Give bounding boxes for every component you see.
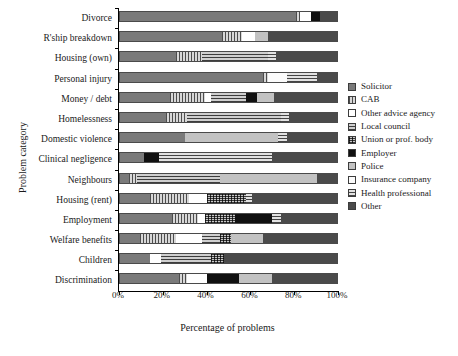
legend-item-localcouncil[interactable]: Local council <box>348 120 458 133</box>
legend-item-police[interactable]: Police <box>348 160 458 173</box>
stacked-bar[interactable] <box>119 31 338 42</box>
bar-segment-solicitor[interactable] <box>120 113 166 122</box>
bar-segment-solicitor[interactable] <box>120 234 140 243</box>
bar-segment-union[interactable] <box>211 254 224 263</box>
bar-segment-solicitor[interactable] <box>120 214 172 223</box>
bar-segment-localcouncil[interactable] <box>161 254 211 263</box>
bar-segment-cab[interactable] <box>140 234 177 243</box>
bar-segment-police[interactable] <box>185 133 278 142</box>
bar-segment-localcouncil[interactable] <box>202 234 219 243</box>
stacked-bar[interactable] <box>119 233 338 244</box>
bar-segment-cab[interactable] <box>150 194 189 203</box>
bar-segment-solicitor[interactable] <box>120 274 179 283</box>
bar-segment-solicitor[interactable] <box>120 32 222 41</box>
bar-segment-solicitor[interactable] <box>120 93 170 102</box>
stacked-bar[interactable] <box>119 11 338 22</box>
bar-segment-cab[interactable] <box>129 174 138 183</box>
bar-segment-police[interactable] <box>239 274 272 283</box>
bar-segment-localcouncil[interactable] <box>202 52 267 61</box>
bar-segment-health[interactable] <box>281 113 290 122</box>
bar-segment-other[interactable] <box>287 133 337 142</box>
bar-segment-employer[interactable] <box>207 274 240 283</box>
bar-row <box>119 109 338 129</box>
legend-item-union[interactable]: Union or prof. body <box>348 133 458 146</box>
legend-item-other[interactable]: Other <box>348 200 458 213</box>
bar-segment-other[interactable] <box>272 274 337 283</box>
legend-item-solicitor[interactable]: Solicitor <box>348 80 458 93</box>
bar-segment-localcouncil[interactable] <box>211 93 246 102</box>
bar-segment-other[interactable] <box>317 174 337 183</box>
bar-segment-other[interactable] <box>268 32 337 41</box>
bar-segment-otheradvice[interactable] <box>187 274 207 283</box>
bar-segment-other[interactable] <box>320 12 337 21</box>
bar-segment-employer[interactable] <box>311 12 320 21</box>
bar-segment-other[interactable] <box>272 153 337 162</box>
stacked-bar[interactable] <box>119 253 338 264</box>
stacked-bar[interactable] <box>119 72 338 83</box>
bar-segment-other[interactable] <box>263 234 337 243</box>
bar-segment-employer[interactable] <box>246 93 257 102</box>
legend-item-health[interactable]: Health professional <box>348 186 458 199</box>
bar-row <box>119 8 338 28</box>
legend-item-cab[interactable]: CAB <box>348 93 458 106</box>
bar-segment-union[interactable] <box>207 194 246 203</box>
bar-segment-other[interactable] <box>274 93 337 102</box>
stacked-bar[interactable] <box>119 193 338 204</box>
bar-segment-cab[interactable] <box>166 113 188 122</box>
stacked-bar[interactable] <box>119 273 338 284</box>
bar-segment-otheradvice[interactable] <box>189 194 206 203</box>
bar-segment-solicitor[interactable] <box>120 133 185 142</box>
stacked-bar[interactable] <box>119 51 338 62</box>
stacked-bar[interactable] <box>119 213 338 224</box>
bar-segment-employer[interactable] <box>235 214 272 223</box>
bar-segment-employer[interactable] <box>144 153 159 162</box>
bar-segment-cab[interactable] <box>176 52 202 61</box>
legend-label: Union or prof. body <box>361 135 433 144</box>
bar-segment-otheradvice[interactable] <box>150 254 161 263</box>
bar-segment-solicitor[interactable] <box>120 12 296 21</box>
bar-segment-solicitor[interactable] <box>120 174 129 183</box>
bar-segment-other[interactable] <box>281 214 337 223</box>
bar-segment-other[interactable] <box>317 73 337 82</box>
bar-segment-insurance[interactable] <box>268 73 288 82</box>
stacked-bar[interactable] <box>119 132 338 143</box>
bar-segment-health[interactable] <box>268 52 277 61</box>
bar-segment-solicitor[interactable] <box>120 52 176 61</box>
bar-segment-solicitor[interactable] <box>120 153 144 162</box>
bar-segment-police[interactable] <box>255 32 268 41</box>
bar-segment-cab[interactable] <box>172 214 198 223</box>
bar-segment-health[interactable] <box>287 73 317 82</box>
category-label: Discrimination <box>14 270 116 290</box>
stacked-bar[interactable] <box>119 112 338 123</box>
bar-segment-union[interactable] <box>220 234 231 243</box>
bar-segment-cab[interactable] <box>179 274 188 283</box>
bar-segment-health[interactable] <box>278 133 287 142</box>
stacked-bar[interactable] <box>119 152 338 163</box>
stacked-bar[interactable] <box>119 92 338 103</box>
bar-segment-localcouncil[interactable] <box>187 113 280 122</box>
bar-segment-police[interactable] <box>257 93 274 102</box>
bar-segment-solicitor[interactable] <box>120 73 263 82</box>
bar-segment-union[interactable] <box>205 214 235 223</box>
bar-segment-other[interactable] <box>276 52 337 61</box>
legend-item-otheradvice[interactable]: Other advice agency <box>348 107 458 120</box>
bar-segment-otheradvice[interactable] <box>242 32 255 41</box>
legend-label: CAB <box>361 95 380 104</box>
bar-segment-other[interactable] <box>252 194 337 203</box>
stacked-bar[interactable] <box>119 173 338 184</box>
bar-segment-health[interactable] <box>272 214 281 223</box>
bar-segment-other[interactable] <box>289 113 337 122</box>
legend-item-employer[interactable]: Employer <box>348 146 458 159</box>
bar-segment-localcouncil[interactable] <box>137 174 219 183</box>
bar-segment-cab[interactable] <box>222 32 242 41</box>
bar-segment-solicitor[interactable] <box>120 194 150 203</box>
bar-segment-police[interactable] <box>220 174 318 183</box>
bar-segment-other[interactable] <box>224 254 337 263</box>
bar-segment-otheradvice[interactable] <box>300 12 311 21</box>
bar-segment-solicitor[interactable] <box>120 254 150 263</box>
bar-segment-health[interactable] <box>159 153 272 162</box>
bar-segment-otheradvice[interactable] <box>176 234 202 243</box>
bar-segment-police[interactable] <box>231 234 264 243</box>
legend-item-insurance[interactable]: Insurance company <box>348 173 458 186</box>
bar-segment-cab[interactable] <box>170 93 205 102</box>
